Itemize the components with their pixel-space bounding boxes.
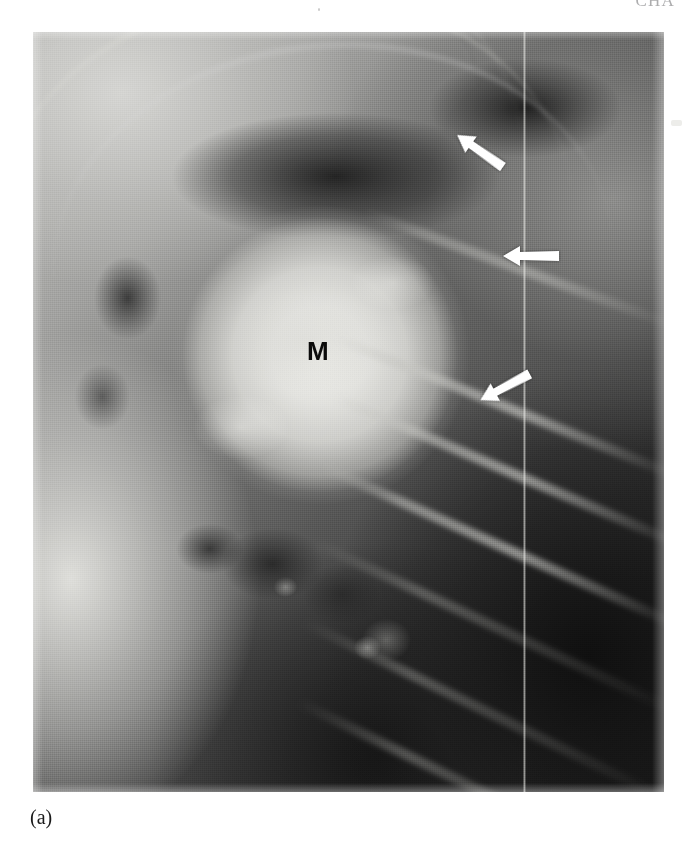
margin-speck [671, 120, 682, 126]
chest-radiograph: M [33, 32, 664, 792]
mass-label-M: M [307, 338, 329, 364]
arrow-middle-icon [503, 245, 559, 267]
page-speck [318, 8, 320, 11]
figure-label: (a) [30, 806, 52, 829]
running-header: CHA [636, 0, 676, 11]
panel-edge-fade [33, 32, 664, 792]
